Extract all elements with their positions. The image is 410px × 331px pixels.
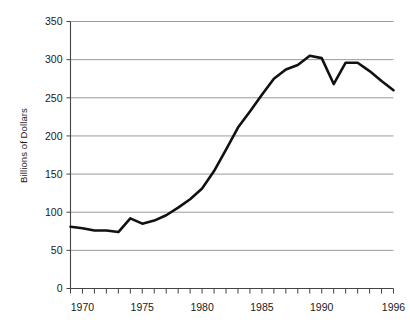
x-tick-label: 1970 bbox=[71, 301, 95, 313]
y-tick-label: 0 bbox=[57, 282, 63, 294]
x-tick-label-group: 197019751980198519901996 bbox=[71, 301, 406, 313]
chart-plot-area: 050100150200250300350 197019751980198519… bbox=[0, 0, 410, 331]
x-tick-label: 1975 bbox=[131, 301, 155, 313]
data-series-line-group bbox=[71, 56, 394, 232]
y-tick-label: 300 bbox=[45, 53, 63, 65]
x-minor-tick-group bbox=[71, 289, 394, 294]
y-tick-label-group: 050100150200250300350 bbox=[45, 15, 71, 294]
x-tick-label: 1996 bbox=[382, 301, 406, 313]
x-tick-label: 1985 bbox=[250, 301, 274, 313]
x-tick-label: 1990 bbox=[310, 301, 334, 313]
x-tick-label: 1980 bbox=[190, 301, 214, 313]
data-series-line bbox=[71, 56, 394, 232]
y-tick-label: 50 bbox=[51, 244, 63, 256]
y-tick-label: 200 bbox=[45, 130, 63, 142]
y-tick-label: 250 bbox=[45, 92, 63, 104]
y-tick-label: 100 bbox=[45, 206, 63, 218]
y-tick-label: 150 bbox=[45, 168, 63, 180]
line-chart: Billions of Dollars 05010015020025030035… bbox=[0, 0, 410, 331]
y-tick-label: 350 bbox=[45, 15, 63, 27]
